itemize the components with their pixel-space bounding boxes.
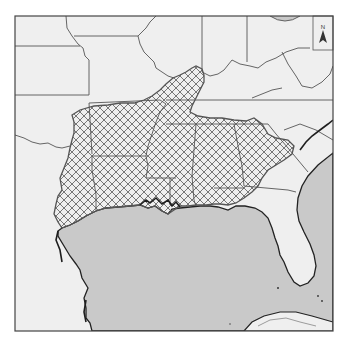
island [321,300,323,302]
range-map: N [0,0,349,349]
island [229,323,230,324]
island [317,295,319,297]
island [277,287,279,289]
north-arrow-label: N [321,24,325,30]
north-arrow-box: N [313,16,333,50]
